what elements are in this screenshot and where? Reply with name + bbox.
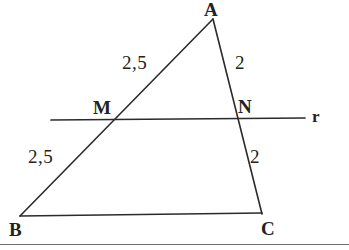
segment-ab	[20, 19, 213, 216]
measure-label-an: 2	[235, 53, 245, 72]
point-label-n: N	[238, 97, 252, 116]
vertex-label-c: C	[261, 219, 275, 238]
vertex-label-b: B	[9, 220, 22, 239]
measure-label-nc: 2	[250, 147, 260, 166]
line-label-r: r	[312, 108, 320, 125]
segment-bc	[20, 213, 262, 216]
measure-label-mb: 2,5	[28, 147, 53, 166]
line-r	[51, 118, 305, 120]
measure-label-am: 2,5	[122, 53, 147, 72]
point-label-m: M	[93, 98, 111, 117]
geometry-figure: A B C M N r 2,5 2 2,5 2	[0, 0, 349, 250]
geometry-canvas	[0, 0, 349, 250]
vertex-label-a: A	[204, 0, 218, 19]
